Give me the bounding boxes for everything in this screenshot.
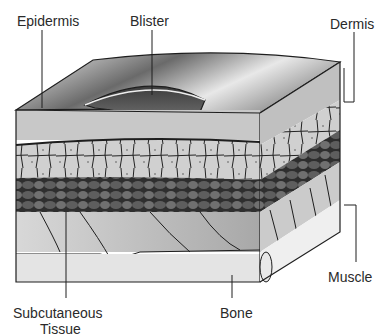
label-muscle: Muscle [328,270,372,284]
label-subcutaneous: Subcutaneous [13,306,103,320]
label-dermis: Dermis [330,17,374,31]
label-epidermis: Epidermis [17,14,79,28]
label-bone: Bone [220,306,253,320]
label-tissue: Tissue [40,322,81,335]
front-face [16,110,260,282]
label-blister: Blister [130,14,169,28]
